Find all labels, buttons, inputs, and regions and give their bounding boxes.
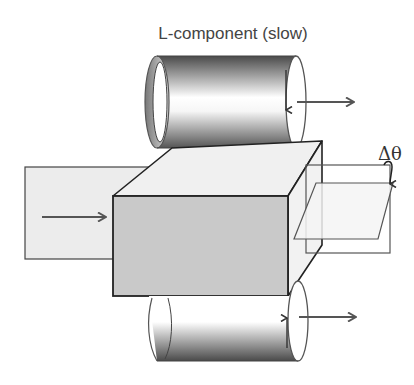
l-component-diagram: L-component (slow) Δθ [0, 0, 414, 385]
rotation-label: Δθ [378, 143, 402, 164]
diagram-title: L-component (slow) [158, 24, 307, 43]
top-cylinder [145, 56, 354, 148]
crystal-box [113, 141, 322, 296]
